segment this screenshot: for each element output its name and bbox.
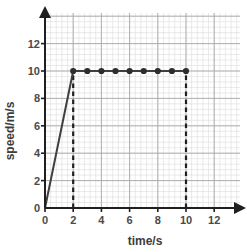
data-point-marker <box>84 68 90 74</box>
x-tick-label: 8 <box>155 215 161 226</box>
x-tick-label: 4 <box>98 215 104 226</box>
data-point-marker <box>183 68 189 74</box>
data-point-marker <box>70 68 76 74</box>
x-tick-label: 12 <box>208 215 220 226</box>
y-tick-label: 12 <box>18 38 40 49</box>
data-point-marker <box>155 68 161 74</box>
speed-time-graph-figure: 024681012 024681012 time/s speed/m/s <box>0 0 247 252</box>
y-tick-label: 10 <box>18 66 40 77</box>
y-tick-label: 6 <box>18 120 40 131</box>
data-point-marker <box>98 68 104 74</box>
x-tick-label: 2 <box>70 215 76 226</box>
y-tick-label: 4 <box>18 148 40 159</box>
data-point-marker <box>112 68 118 74</box>
y-tick-label: 2 <box>18 175 40 186</box>
x-tick-label: 0 <box>42 215 48 226</box>
x-tick-label: 6 <box>127 215 133 226</box>
y-axis-title: speed/m/s <box>4 102 16 161</box>
y-tick-label: 0 <box>18 203 40 214</box>
data-point-marker <box>127 68 133 74</box>
x-axis-title: time/s <box>128 235 163 247</box>
y-tick-label: 8 <box>18 93 40 104</box>
data-point-marker <box>141 68 147 74</box>
x-tick-label: 10 <box>180 215 192 226</box>
data-point-marker <box>169 68 175 74</box>
data-point-markers <box>70 68 189 74</box>
